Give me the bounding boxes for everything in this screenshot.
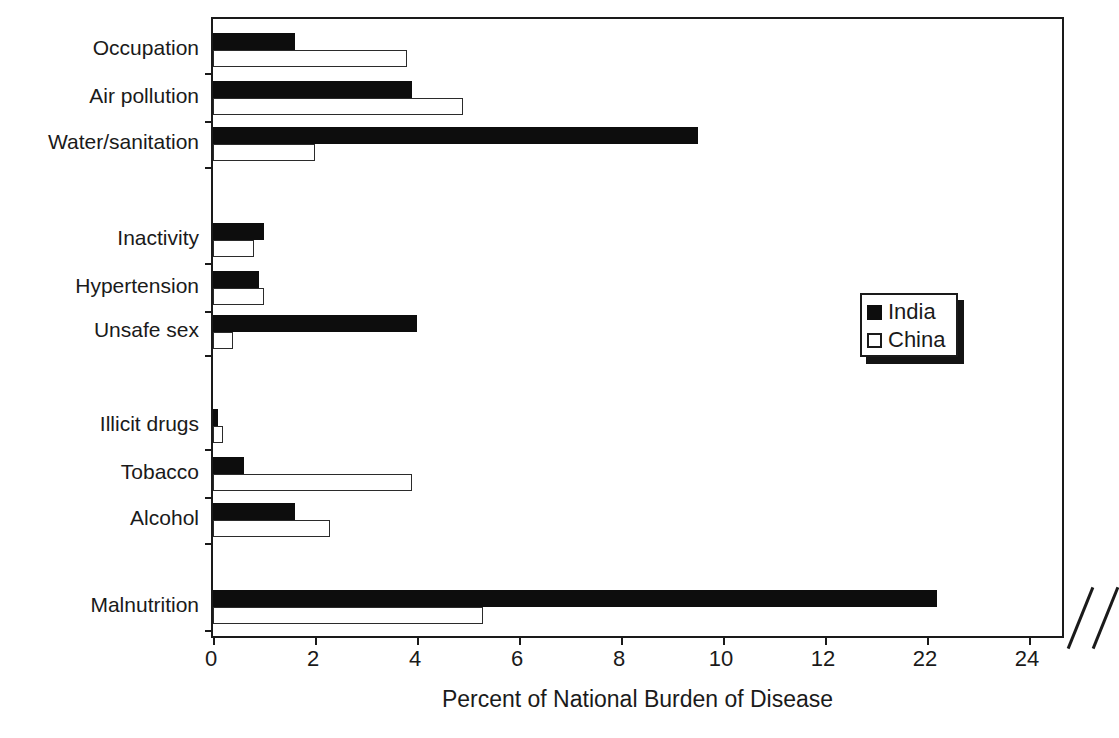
- x-tick-label-2: 2: [307, 648, 319, 670]
- y-axis-label-unsafe-sex: Unsafe sex: [0, 319, 199, 340]
- x-tick-4: [417, 636, 419, 645]
- bar-india-hypertension: [213, 271, 259, 288]
- bar-india-water-sanitation: [213, 127, 698, 144]
- y-tick: [205, 630, 213, 632]
- y-axis-label-air-pollution: Air pollution: [0, 85, 199, 106]
- x-tick-label-8: 8: [613, 648, 625, 670]
- bar-china-malnutrition: [213, 607, 483, 624]
- y-axis-label-tobacco: Tobacco: [0, 461, 199, 482]
- x-tick-label-0: 0: [205, 648, 217, 670]
- bar-china-unsafe-sex: [213, 332, 233, 349]
- bar-india-malnutrition: [213, 590, 937, 607]
- y-tick: [205, 121, 213, 123]
- y-tick: [205, 167, 213, 169]
- y-tick: [205, 497, 213, 499]
- bar-china-water-sanitation: [213, 144, 315, 161]
- y-tick: [205, 355, 213, 357]
- y-axis-label-hypertension: Hypertension: [0, 275, 199, 296]
- x-tick-2: [315, 636, 317, 645]
- bar-china-tobacco: [213, 474, 412, 491]
- x-tick-6: [519, 636, 521, 645]
- axis-break-mark-right: [1092, 587, 1119, 649]
- axis-break-mark-left: [1067, 587, 1095, 649]
- legend-item-china: China: [867, 326, 956, 354]
- x-tick-22: [927, 636, 929, 645]
- bar-china-alcohol: [213, 520, 330, 537]
- filled-square-icon: [867, 305, 882, 320]
- y-axis-labels: OccupationAir pollutionWater/sanitationI…: [0, 0, 199, 738]
- bar-india-illicit-drugs: [213, 409, 218, 426]
- y-tick: [205, 449, 213, 451]
- bar-india-unsafe-sex: [213, 315, 417, 332]
- bar-india-alcohol: [213, 503, 295, 520]
- legend-item-india: India: [867, 298, 956, 326]
- y-axis-label-alcohol: Alcohol: [0, 507, 199, 528]
- y-axis-label-occupation: Occupation: [0, 37, 199, 58]
- x-axis-title: Percent of National Burden of Disease: [211, 688, 1064, 711]
- bar-china-inactivity: [213, 240, 254, 257]
- x-tick-10: [723, 636, 725, 645]
- y-axis-label-malnutrition: Malnutrition: [0, 594, 199, 615]
- bar-india-tobacco: [213, 457, 244, 474]
- bar-china-air-pollution: [213, 98, 463, 115]
- bar-china-illicit-drugs: [213, 426, 223, 443]
- bar-india-air-pollution: [213, 81, 412, 98]
- y-tick: [205, 73, 213, 75]
- x-tick-label-6: 6: [511, 648, 523, 670]
- y-axis-label-water-sanitation: Water/sanitation: [0, 131, 199, 152]
- legend-label-india: India: [888, 301, 936, 323]
- bar-china-hypertension: [213, 288, 264, 305]
- y-axis-label-inactivity: Inactivity: [0, 227, 199, 248]
- x-tick-label-24: 24: [1015, 648, 1039, 670]
- y-axis-label-illicit-drugs: Illicit drugs: [0, 413, 199, 434]
- y-tick: [205, 311, 213, 313]
- x-tick-24: [1029, 636, 1031, 645]
- x-tick-0: [213, 636, 215, 645]
- x-tick-label-10: 10: [709, 648, 733, 670]
- hollow-square-icon: [867, 333, 882, 348]
- legend-label-china: China: [888, 329, 945, 351]
- x-tick-8: [621, 636, 623, 645]
- legend: India China: [860, 293, 958, 357]
- bar-india-occupation: [213, 33, 295, 50]
- y-tick: [205, 263, 213, 265]
- x-tick-label-22: 22: [913, 648, 937, 670]
- x-tick-label-4: 4: [409, 648, 421, 670]
- x-tick-12: [825, 636, 827, 645]
- y-tick: [205, 543, 213, 545]
- bar-india-inactivity: [213, 223, 264, 240]
- x-tick-label-12: 12: [811, 648, 835, 670]
- bar-china-occupation: [213, 50, 407, 67]
